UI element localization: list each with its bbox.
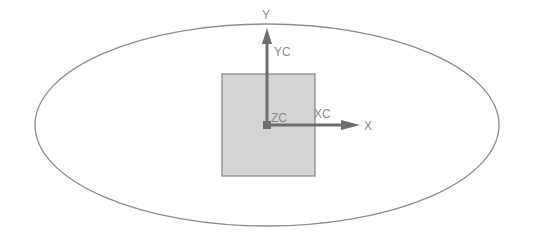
origin-marker xyxy=(263,121,271,129)
label-zc: ZC xyxy=(271,111,287,125)
label-x: X xyxy=(364,119,372,133)
diagram-canvas: Y YC ZC XC X xyxy=(0,0,545,238)
label-yc: YC xyxy=(274,45,291,59)
label-xc: XC xyxy=(314,107,331,121)
label-y: Y xyxy=(262,8,270,22)
